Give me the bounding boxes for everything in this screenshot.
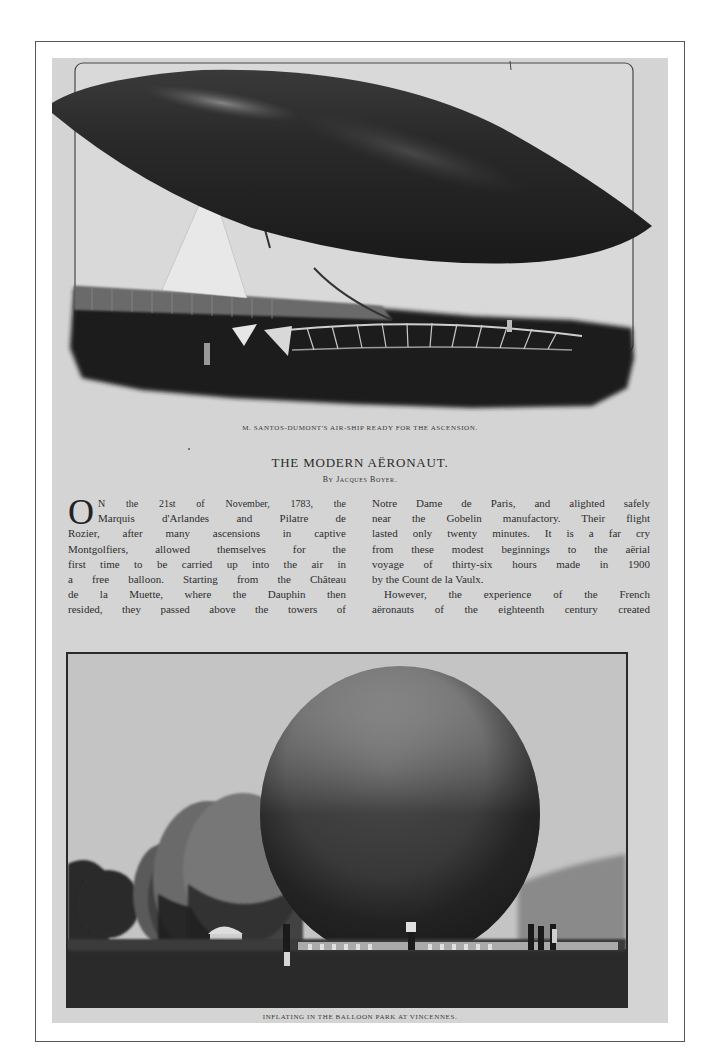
magazine-page: M. Santos-Dumont's air-ship ready for th… bbox=[52, 58, 668, 1023]
text-line: by the Count de la Vaulx. bbox=[372, 572, 650, 587]
bottom-photo-caption: Inflating in the balloon park at Vincenn… bbox=[52, 1013, 668, 1021]
text-line: a free balloon. Starting from the Châtea… bbox=[68, 572, 346, 587]
balloon-park-photo bbox=[66, 652, 628, 1008]
article-byline: By Jacques Boyer. bbox=[52, 475, 668, 484]
text-line: N the 21st of November, 1783, the bbox=[98, 496, 346, 511]
text-line: aëronauts of the eighteenth century crea… bbox=[372, 602, 650, 617]
balloons-illustration bbox=[68, 654, 626, 1006]
article-column-right: Notre Dame de Paris, and alighted safely… bbox=[372, 496, 650, 618]
text-line: from these modest beginnings to the aëri… bbox=[372, 542, 650, 557]
text-line: resided, they passed above the towers of bbox=[68, 602, 346, 617]
airship-photo bbox=[52, 58, 668, 418]
text-line: However, the experience of the French bbox=[372, 587, 650, 602]
text-line: Montgolfiers, allowed themselves for the bbox=[68, 542, 346, 557]
top-photo-caption: M. Santos-Dumont's air-ship ready for th… bbox=[52, 424, 668, 432]
article-column-left: O N the 21st of November, 1783, the Marq… bbox=[68, 496, 346, 618]
drop-cap: O bbox=[68, 498, 94, 526]
text-line: voyage of thirty-six hours made in 1900 bbox=[372, 557, 650, 572]
print-speck bbox=[188, 448, 190, 450]
text-line: Marquis d'Arlandes and Pilatre de bbox=[98, 511, 346, 526]
text-line: lasted only twenty minutes. It is a far … bbox=[372, 526, 650, 541]
text-line: Rozier, after many ascensions in captive bbox=[68, 526, 346, 541]
text-line: first time to be carried up into the air… bbox=[68, 557, 346, 572]
article-title: THE MODERN AËRONAUT. bbox=[52, 455, 668, 471]
text-line: near the Gobelin manufactory. Their flig… bbox=[372, 511, 650, 526]
text-line: Notre Dame de Paris, and alighted safely bbox=[372, 496, 650, 511]
text-line: de la Muette, where the Dauphin then bbox=[68, 587, 346, 602]
